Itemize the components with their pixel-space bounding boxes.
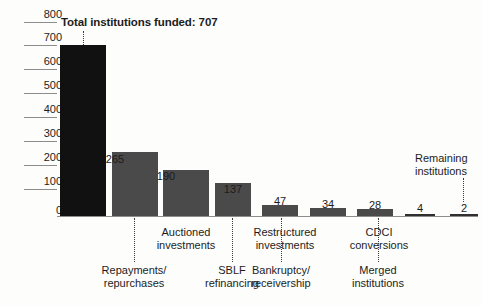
bar-value-4: 4 [405,203,435,214]
y-tick-label-400: 400 [22,104,62,115]
category-label-bankruptcy-receivership-line1: Bankruptcy/ [231,264,331,277]
category-label-repayments-repurchases-line1: Repayments/ [83,264,185,277]
y-tick-rule-200 [24,165,57,166]
bar-value-137: 137 [215,184,251,195]
y-tick-rule-100 [24,189,57,190]
category-label-remaining-institutions-line2: institutions [415,165,482,178]
y-tick-rule-400 [24,117,57,118]
y-tick-label-100: 100 [22,176,62,187]
y-tick-label-0: 0 [22,205,62,216]
y-tick-label-600: 600 [22,56,62,67]
y-tick-rule-300 [24,141,57,142]
leader-line-repayments-repurchases [134,218,136,262]
x-axis-baseline [57,216,478,217]
category-label-merged-institutions-line1: Merged [330,264,426,277]
y-tick-label-700: 700 [22,32,62,43]
category-label-restructured-investments-line2: investments [235,239,335,252]
category-label-auctioned-investments-line2: investments [138,239,234,252]
category-label-cdci-conversions-line2: conversions [333,239,425,252]
y-tick-rule-600 [24,69,57,70]
category-label-bankruptcy-receivership-line2: receivership [231,277,331,290]
bar-remaining-institutions[interactable] [450,214,478,216]
y-tick-label-300: 300 [22,128,62,139]
y-tick-label-800: 800 [22,9,62,20]
chart-title: Total institutions funded: 707 [61,16,218,28]
bar-value-265: 265 [97,154,133,165]
bar-value-34: 34 [310,199,346,210]
bar-merged-institutions[interactable] [405,214,435,216]
y-tick-rule-700 [24,45,57,46]
bar-value-47: 47 [262,196,298,207]
category-label-restructured-investments-line1: Restructured [235,226,335,239]
category-label-auctioned-investments-line1: Auctioned [138,226,234,239]
bar-chart: Total institutions funded: 707 800 700 6… [0,0,482,306]
leader-line-remaining-institutions [463,178,465,202]
y-tick-label-200: 200 [22,152,62,163]
y-tick-rule-800 [24,22,57,23]
y-tick-rule-500 [24,93,57,94]
category-label-remaining-institutions-line1: Remaining [415,152,482,165]
bar-total-institutions-funded[interactable] [60,45,106,216]
bar-value-190: 190 [148,171,184,182]
bar-value-28: 28 [357,200,393,211]
category-label-merged-institutions-line2: institutions [330,277,426,290]
category-label-repayments-repurchases-line2: repurchases [83,277,185,290]
category-label-cdci-conversions-line1: CDCI [333,226,425,239]
leader-line-total-institutions [83,31,85,45]
y-tick-label-500: 500 [22,80,62,91]
bar-value-2: 2 [450,203,478,214]
